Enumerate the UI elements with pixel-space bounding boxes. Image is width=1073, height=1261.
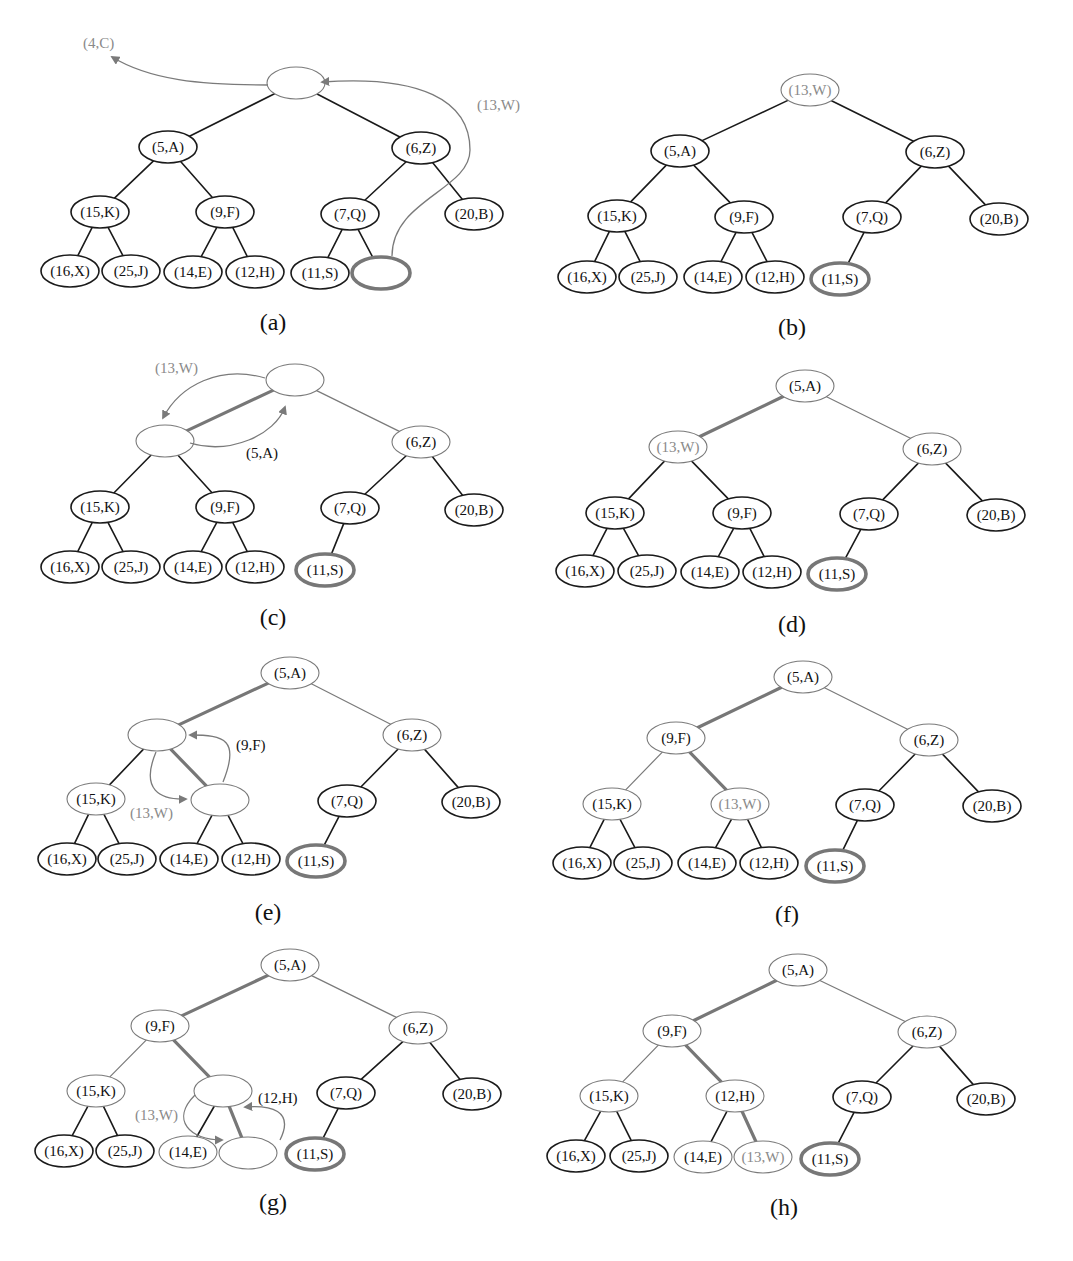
node-label: (20,B) bbox=[455, 206, 494, 223]
tree-edge bbox=[114, 455, 151, 493]
node-label: (14,E) bbox=[169, 1144, 207, 1161]
node-label: (15,K) bbox=[595, 505, 635, 522]
heap-node: (13,W) bbox=[781, 74, 839, 106]
tree-edge bbox=[201, 522, 217, 551]
heap-node: (25,J) bbox=[102, 255, 160, 287]
tree-edge bbox=[108, 227, 123, 255]
node-label: (14,E) bbox=[684, 1149, 722, 1166]
empty-heap-node bbox=[136, 425, 194, 457]
tree-edge bbox=[178, 455, 212, 492]
heap-node: (7,Q) bbox=[317, 1077, 375, 1109]
tree-edge bbox=[361, 749, 398, 787]
node-label: (20,B) bbox=[980, 211, 1019, 228]
heap-node: (7,Q) bbox=[843, 201, 901, 233]
node-label: (9,F) bbox=[210, 499, 240, 516]
tree-edge bbox=[943, 754, 979, 792]
tree-edge bbox=[74, 814, 88, 843]
heap-node: (9,F) bbox=[131, 1010, 189, 1042]
node-label: (6,Z) bbox=[397, 727, 427, 744]
node-ellipse bbox=[128, 719, 186, 751]
heap-node: (5,A) bbox=[139, 131, 197, 163]
panel-c: (6,Z)(15,K)(9,F)(7,Q)(20,B)(16,X)(25,J)(… bbox=[41, 360, 503, 630]
heap-node: (20,B) bbox=[443, 1078, 501, 1110]
heap-node: (16,X) bbox=[556, 555, 614, 587]
tree-edge bbox=[595, 231, 610, 261]
node-label: (14,E) bbox=[174, 559, 212, 576]
arrow-label: (13,W) bbox=[155, 360, 198, 377]
node-label: (13,W) bbox=[719, 796, 762, 813]
tree-edge bbox=[114, 161, 153, 198]
empty-heap-node bbox=[266, 364, 324, 396]
tree-edge bbox=[103, 1106, 117, 1135]
heap-node: (6,Z) bbox=[903, 433, 961, 465]
node-label: (6,Z) bbox=[403, 1020, 433, 1037]
node-label: (7,Q) bbox=[334, 206, 366, 223]
node-label: (20,B) bbox=[455, 502, 494, 519]
heap-node: (5,A) bbox=[776, 370, 834, 402]
node-label: (9,F) bbox=[729, 209, 759, 226]
node-ellipse bbox=[266, 364, 324, 396]
heap-node: (6,Z) bbox=[389, 1012, 447, 1044]
tree-edge bbox=[845, 529, 861, 558]
tree-edge bbox=[883, 463, 919, 500]
node-label: (14,E) bbox=[170, 851, 208, 868]
tree-edge bbox=[593, 528, 607, 555]
tree-edge bbox=[311, 684, 390, 724]
heap-node: (7,Q) bbox=[321, 492, 379, 524]
heap-node: (20,B) bbox=[442, 786, 500, 818]
heap-node: (14,E) bbox=[674, 1141, 732, 1173]
node-label: (12,H) bbox=[749, 855, 789, 872]
tree-edge bbox=[361, 1042, 403, 1080]
node-label: (5,A) bbox=[787, 669, 819, 686]
node-label: (15,K) bbox=[597, 208, 637, 225]
tree-edge bbox=[876, 1046, 913, 1083]
tree-edge bbox=[692, 461, 729, 499]
heap-node: (5,A) bbox=[651, 135, 709, 167]
tree-edge bbox=[838, 1112, 854, 1143]
node-label: (5,A) bbox=[782, 962, 814, 979]
heap-node: (7,Q) bbox=[833, 1081, 891, 1113]
node-label: (15,K) bbox=[76, 1083, 116, 1100]
node-label: (16,X) bbox=[47, 851, 87, 868]
heap-node: (25,J) bbox=[102, 551, 160, 583]
tree-edge bbox=[312, 976, 397, 1018]
heap-node: (9,F) bbox=[643, 1015, 701, 1047]
heap-node: (13,W) bbox=[649, 431, 707, 463]
tree-edge bbox=[827, 397, 911, 439]
arrow-label: (4,C) bbox=[83, 35, 114, 52]
heap-node: (15,K) bbox=[588, 200, 646, 232]
node-label: (25,J) bbox=[110, 851, 145, 868]
node-label: (9,F) bbox=[661, 730, 691, 747]
tree-edge bbox=[694, 165, 731, 203]
heap-node: (14,E) bbox=[159, 1136, 217, 1168]
tree-edge bbox=[78, 522, 93, 551]
node-label: (11,S) bbox=[307, 562, 344, 579]
arrow-label: (5,A) bbox=[246, 445, 278, 462]
heap-node: (7,Q) bbox=[321, 198, 379, 230]
tree-edge bbox=[228, 815, 243, 843]
tree-edge bbox=[617, 1111, 632, 1140]
tree-edge bbox=[324, 816, 339, 845]
arrow-label: (12,H) bbox=[258, 1090, 298, 1107]
heap-node: (25,J) bbox=[610, 1140, 668, 1172]
node-label: (6,Z) bbox=[914, 732, 944, 749]
panel-b: (13,W)(5,A)(6,Z)(15,K)(9,F)(7,Q)(20,B)(1… bbox=[558, 74, 1028, 340]
node-label: (15,K) bbox=[80, 499, 120, 516]
node-label: (11,S) bbox=[302, 265, 339, 282]
tree-edge bbox=[711, 1111, 727, 1141]
node-label: (16,X) bbox=[44, 1143, 84, 1160]
node-label: (7,Q) bbox=[856, 209, 888, 226]
tree-edge bbox=[233, 522, 248, 551]
node-label: (16,X) bbox=[567, 269, 607, 286]
tree-edge bbox=[182, 975, 268, 1015]
node-label: (25,J) bbox=[622, 1148, 657, 1165]
tree-edge bbox=[690, 752, 727, 790]
tree-edge bbox=[686, 1045, 722, 1082]
node-ellipse bbox=[267, 67, 325, 99]
heap-node: (11,S) bbox=[806, 850, 864, 882]
heap-node: (25,J) bbox=[98, 843, 156, 875]
move-arrow bbox=[163, 374, 265, 418]
node-label: (7,Q) bbox=[334, 500, 366, 517]
tree-edge bbox=[78, 227, 92, 255]
node-label: (7,Q) bbox=[853, 506, 885, 523]
